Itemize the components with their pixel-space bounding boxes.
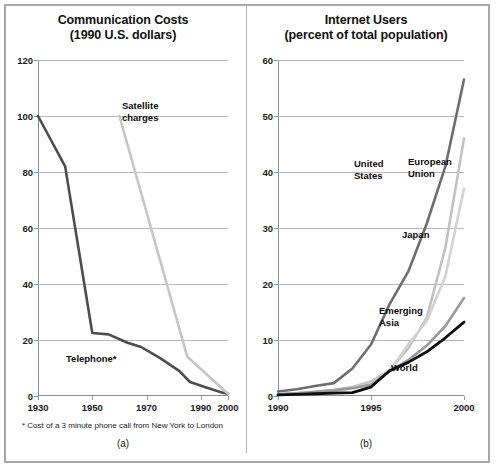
x-tick-mark bbox=[278, 396, 279, 400]
x-tick-mark bbox=[147, 396, 148, 400]
eu-label-line2: Union bbox=[408, 168, 435, 179]
satellite-label-line2: charges bbox=[122, 112, 158, 123]
x-tick-label: 1990 bbox=[190, 402, 211, 413]
x-tick-mark bbox=[464, 396, 465, 400]
y-tick-label: 50 bbox=[262, 111, 273, 122]
series-label-world: World bbox=[391, 362, 418, 374]
panel-a-title-line2: (1990 U.S. dollars) bbox=[0, 28, 246, 43]
panel-a-title: Communication Costs (1990 U.S. dollars) bbox=[0, 13, 246, 43]
telephone-label-text: Telephone* bbox=[66, 353, 117, 364]
x-tick-mark bbox=[38, 396, 39, 400]
satellite-label-line1: Satellite bbox=[122, 100, 158, 111]
panel-b-caption: (b) bbox=[246, 438, 486, 449]
x-tick-label: 1990 bbox=[267, 402, 288, 413]
x-tick-label: 1950 bbox=[82, 402, 103, 413]
x-tick-label: 1930 bbox=[27, 402, 48, 413]
y-tick-label: 80 bbox=[22, 167, 33, 178]
x-tick-label: 1995 bbox=[360, 402, 381, 413]
emerging-asia-label-line2: Asia bbox=[379, 317, 399, 328]
series-label-japan: Japan bbox=[402, 229, 429, 241]
y-tick-label: 0 bbox=[28, 391, 33, 402]
us-label-line1: United bbox=[354, 158, 384, 169]
series-line-satellite-charges bbox=[119, 116, 228, 394]
x-tick-mark bbox=[201, 396, 202, 400]
y-tick-label: 10 bbox=[262, 335, 273, 346]
x-tick-label: 1970 bbox=[136, 402, 157, 413]
y-tick-label: 30 bbox=[262, 223, 273, 234]
emerging-asia-label-line1: Emerging bbox=[379, 305, 423, 316]
series-label-united-states: United States bbox=[354, 158, 384, 181]
japan-label-text: Japan bbox=[402, 229, 429, 240]
series-label-telephone: Telephone* bbox=[66, 353, 117, 365]
y-tick-label: 20 bbox=[22, 335, 33, 346]
panel-b-title: Internet Users (percent of total populat… bbox=[246, 13, 486, 43]
series-lines-b bbox=[278, 60, 464, 396]
panel-a-footnote: * Cost of a 3 minute phone call from New… bbox=[22, 421, 223, 430]
x-tick-label: 2000 bbox=[217, 402, 238, 413]
panel-b-title-line2: (percent of total population) bbox=[246, 28, 486, 43]
y-tick-label: 100 bbox=[17, 111, 33, 122]
x-tick-label: 2000 bbox=[453, 402, 474, 413]
series-label-european-union: European Union bbox=[408, 156, 452, 179]
x-tick-mark bbox=[228, 396, 229, 400]
series-line-japan bbox=[278, 189, 464, 395]
x-tick-mark bbox=[92, 396, 93, 400]
plot-area-b: 0102030405060 199019952000 United States… bbox=[278, 60, 464, 396]
y-tick-label: 120 bbox=[17, 55, 33, 66]
figure-root: Communication Costs (1990 U.S. dollars) … bbox=[0, 0, 496, 469]
us-label-line2: States bbox=[354, 170, 383, 181]
eu-label-line1: European bbox=[408, 156, 452, 167]
plot-area-a: 020406080100120 19301950197019902000 Sat… bbox=[38, 60, 228, 396]
panel-a-title-line1: Communication Costs bbox=[58, 13, 189, 27]
world-label-text: World bbox=[391, 362, 418, 373]
panel-b-title-line1: Internet Users bbox=[325, 13, 408, 27]
panel-communication-costs: Communication Costs (1990 U.S. dollars) … bbox=[0, 0, 246, 459]
panel-a-caption: (a) bbox=[0, 438, 246, 449]
series-label-satellite-charges: Satellite charges bbox=[122, 100, 158, 123]
y-tick-label: 40 bbox=[262, 167, 273, 178]
y-tick-label: 0 bbox=[268, 391, 273, 402]
y-tick-label: 40 bbox=[22, 279, 33, 290]
y-tick-label: 60 bbox=[262, 55, 273, 66]
y-tick-label: 60 bbox=[22, 223, 33, 234]
series-label-emerging-asia: Emerging Asia bbox=[379, 305, 423, 328]
y-tick-label: 20 bbox=[262, 279, 273, 290]
x-tick-mark bbox=[371, 396, 372, 400]
panel-internet-users: Internet Users (percent of total populat… bbox=[246, 0, 486, 459]
